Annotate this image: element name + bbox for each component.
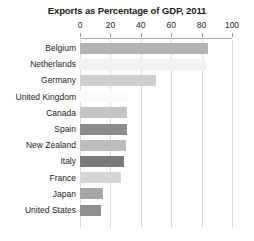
- bar: [80, 107, 127, 118]
- bar: [80, 188, 103, 199]
- category-label: France: [50, 170, 76, 186]
- x-axis-line: [80, 38, 232, 39]
- chart-row: Japan: [80, 186, 232, 202]
- x-tick-label: 100: [225, 20, 239, 30]
- x-axis-tick-labels: 020406080100: [80, 20, 232, 32]
- x-tick-mark: [202, 33, 203, 37]
- x-tick-mark: [232, 33, 233, 37]
- chart-row: France: [80, 170, 232, 186]
- chart-row: Spain: [80, 121, 232, 137]
- category-label: Japan: [53, 186, 76, 202]
- category-label: Belgium: [45, 40, 76, 56]
- chart-row: United States: [80, 202, 232, 218]
- category-label: Spain: [54, 121, 76, 137]
- category-label: New Zealand: [26, 137, 76, 153]
- bar: [80, 124, 127, 135]
- category-label: Canada: [46, 105, 76, 121]
- chart-row: Canada: [80, 105, 232, 121]
- chart-row: New Zealand: [80, 137, 232, 153]
- plot-area: BelgiumNetherlandsGermanyUnited KingdomC…: [80, 40, 232, 228]
- chart-row: Belgium: [80, 40, 232, 56]
- category-label: United Kingdom: [16, 89, 76, 105]
- bar: [80, 172, 121, 183]
- chart-row: Netherlands: [80, 56, 232, 72]
- x-tick-mark: [80, 33, 81, 37]
- x-tick-label: 80: [197, 20, 206, 30]
- category-label: Germany: [41, 72, 76, 88]
- chart-row: Germany: [80, 72, 232, 88]
- bar-chart: Exports as Percentage of GDP, 2011 02040…: [0, 0, 254, 241]
- bar: [80, 156, 124, 167]
- chart-row: Italy: [80, 153, 232, 169]
- chart-title: Exports as Percentage of GDP, 2011: [0, 5, 254, 16]
- category-label: United States: [25, 202, 76, 218]
- x-tick-mark: [110, 33, 111, 37]
- bar: [80, 75, 156, 86]
- x-tick-label: 20: [106, 20, 115, 30]
- bar: [80, 59, 206, 70]
- x-tick-label: 40: [136, 20, 145, 30]
- x-tick-mark: [141, 33, 142, 37]
- bar: [80, 140, 126, 151]
- x-tick-mark: [171, 33, 172, 37]
- bar: [80, 43, 208, 54]
- category-label: Netherlands: [30, 56, 76, 72]
- x-tick-label: 60: [166, 20, 175, 30]
- bar: [80, 91, 129, 102]
- x-tick-label: 0: [78, 20, 83, 30]
- bar: [80, 205, 101, 216]
- category-label: Italy: [60, 153, 76, 169]
- gridline: [232, 40, 233, 228]
- chart-row: United Kingdom: [80, 89, 232, 105]
